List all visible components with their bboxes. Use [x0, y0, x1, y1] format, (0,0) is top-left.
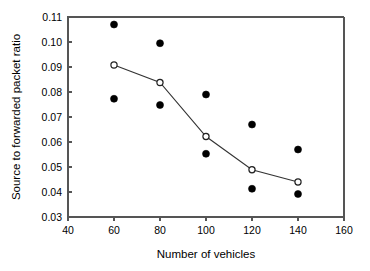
x-tick-label: 100 — [197, 224, 215, 236]
y-tick-label: 0.04 — [42, 186, 63, 198]
series-line-mean-line — [114, 65, 298, 182]
y-tick-label: 0.10 — [42, 36, 63, 48]
axis-frame-top-left — [68, 17, 344, 217]
data-point-filled — [203, 150, 210, 157]
y-tick-label: 0.07 — [42, 111, 63, 123]
x-tick-label: 160 — [335, 224, 353, 236]
y-tick-label: 0.11 — [42, 11, 62, 23]
data-point-filled — [295, 146, 302, 153]
data-point-filled — [203, 91, 210, 98]
y-tick-label: 0.08 — [42, 86, 63, 98]
x-tick-label: 80 — [154, 224, 166, 236]
chart-container: 0.030.040.050.060.070.080.090.100.114060… — [0, 0, 370, 271]
scatter-line-chart: 0.030.040.050.060.070.080.090.100.114060… — [0, 0, 370, 271]
x-axis-title: Number of vehicles — [157, 248, 256, 260]
y-axis-title: Source to forwarded packet ratio — [10, 34, 22, 200]
y-tick-label: 0.03 — [42, 211, 63, 223]
data-point-open — [157, 79, 163, 85]
x-tick-label: 120 — [243, 224, 261, 236]
data-point-open — [295, 179, 301, 185]
x-tick-label: 40 — [62, 224, 74, 236]
x-tick-label: 140 — [289, 224, 307, 236]
data-point-filled — [157, 102, 164, 109]
data-point-filled — [111, 21, 118, 28]
data-point-open — [111, 62, 117, 68]
x-tick-label: 60 — [108, 224, 120, 236]
data-point-open — [203, 133, 209, 139]
y-tick-label: 0.06 — [42, 136, 63, 148]
y-tick-label: 0.09 — [42, 61, 63, 73]
data-point-filled — [295, 191, 302, 198]
data-point-filled — [111, 95, 118, 102]
data-point-filled — [157, 40, 164, 47]
data-point-open — [249, 167, 255, 173]
y-tick-label: 0.05 — [42, 161, 63, 173]
data-point-filled — [249, 121, 256, 128]
data-point-filled — [249, 185, 256, 192]
